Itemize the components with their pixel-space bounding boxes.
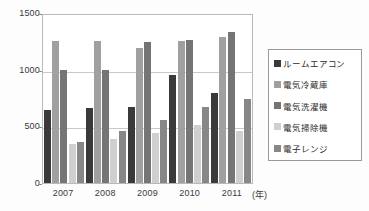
legend-swatch-icon (274, 145, 281, 152)
bar (244, 99, 251, 183)
bar (160, 120, 167, 183)
legend-item-3: 電気掃除機 (274, 119, 357, 135)
x-axis-tick-label: 2009 (127, 188, 167, 198)
legend-item-label: 電気洗濯機 (283, 100, 328, 112)
bar (128, 107, 135, 183)
y-axis-tick-mark (38, 184, 42, 185)
bar-group-2009 (127, 15, 168, 183)
bar (136, 48, 143, 183)
bar (110, 139, 117, 183)
x-axis-unit-label: (年) (252, 188, 267, 201)
bar (186, 40, 193, 183)
y-axis-tick-label: 1000 (2, 65, 40, 75)
legend-item-label: 電気冷蔵庫 (283, 78, 328, 90)
legend-swatch-icon (274, 81, 281, 88)
legend-swatch-icon (274, 60, 281, 67)
bar (86, 108, 93, 183)
legend-swatch-icon (274, 102, 281, 109)
legend-item-2: 電気洗濯機 (274, 98, 357, 114)
bar-group-2007 (43, 15, 84, 183)
legend-item-1: 電気冷蔵庫 (274, 76, 357, 92)
x-axis: 20072008200920102011 (42, 188, 253, 204)
bar (144, 42, 151, 183)
bar (119, 131, 126, 183)
legend-item-label: 電子レンジ (283, 142, 328, 154)
bar (52, 41, 59, 183)
bar (236, 131, 243, 183)
legend-item-label: 電気掃除機 (283, 121, 328, 133)
bar (60, 70, 67, 183)
bars-layer (43, 15, 252, 183)
chart-screenshot: 150010005000 20072008200920102011 (年) ルー… (0, 0, 369, 211)
legend-item-label: ルームエアコン (283, 57, 345, 69)
bar (211, 93, 218, 183)
legend-swatch-icon (274, 123, 281, 130)
bar (44, 110, 51, 183)
y-axis-tick-label: 500 (2, 121, 40, 131)
plot-area (42, 14, 253, 184)
x-axis-tick-label: 2008 (85, 188, 125, 198)
bar (194, 125, 201, 183)
chart-legend: ルームエアコン電気冷蔵庫電気洗濯機電気掃除機電子レンジ (268, 49, 362, 161)
y-axis-tick-label: 0 (2, 178, 40, 188)
y-axis-tick-label: 1500 (2, 8, 40, 18)
x-axis-tick-label: 2010 (170, 188, 210, 198)
bar (169, 75, 176, 183)
bar (69, 144, 76, 183)
bar (228, 32, 235, 183)
bar (94, 41, 101, 183)
legend-item-4: 電子レンジ (274, 140, 357, 156)
x-axis-tick-label: 2007 (43, 188, 83, 198)
bar (152, 133, 159, 183)
bar-group-2010 (169, 15, 210, 183)
bar-group-2008 (85, 15, 126, 183)
x-axis-tick-label: 2011 (212, 188, 252, 198)
legend-item-0: ルームエアコン (274, 55, 357, 71)
bar (77, 142, 84, 183)
bar (219, 37, 226, 183)
bar (102, 70, 109, 183)
bar (202, 107, 209, 183)
bar-group-2011 (211, 15, 252, 183)
y-axis: 150010005000 (0, 0, 40, 184)
bar (178, 41, 185, 183)
